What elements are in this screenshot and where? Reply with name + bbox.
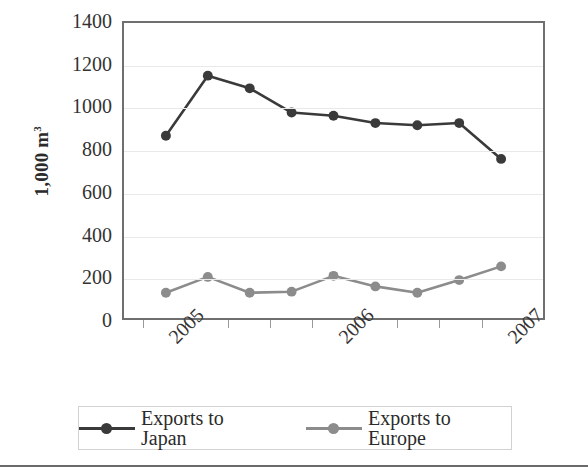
x-tick-mark bbox=[312, 320, 313, 328]
data-point bbox=[329, 111, 339, 121]
data-point bbox=[203, 71, 213, 81]
line-chart-figure: 1,000 m3 0200400600800100012001400 20052… bbox=[0, 0, 588, 473]
x-tick-mark bbox=[143, 320, 144, 328]
plot-area bbox=[122, 21, 545, 320]
data-point bbox=[496, 261, 506, 271]
series-canvas bbox=[124, 23, 543, 318]
data-point bbox=[370, 118, 380, 128]
data-point bbox=[454, 118, 464, 128]
y-axis-title-superscript: 3 bbox=[31, 126, 43, 132]
y-tick-label: 800 bbox=[56, 139, 112, 159]
legend-item[interactable]: Exports to Europe bbox=[306, 408, 511, 448]
data-point bbox=[203, 272, 213, 282]
y-axis-title-text: 1,000 m bbox=[31, 132, 52, 197]
data-point bbox=[412, 288, 422, 298]
gridline bbox=[124, 108, 543, 109]
bottom-divider bbox=[0, 465, 588, 467]
data-point bbox=[161, 288, 171, 298]
gridline bbox=[124, 279, 543, 280]
x-tick-mark bbox=[228, 320, 229, 328]
y-axis-title: 1,000 m3 bbox=[31, 86, 53, 236]
data-point bbox=[245, 288, 255, 298]
data-point bbox=[245, 83, 255, 93]
series-exports-to-japan bbox=[161, 71, 506, 164]
y-tick-label: 1000 bbox=[56, 96, 112, 116]
legend-label: Exports to Japan bbox=[141, 408, 272, 448]
data-point bbox=[370, 281, 380, 291]
legend-item[interactable]: Exports to Japan bbox=[79, 408, 272, 448]
y-tick-label: 1200 bbox=[56, 54, 112, 74]
x-tick-mark bbox=[439, 320, 440, 328]
y-tick-label: 400 bbox=[56, 225, 112, 245]
legend-swatch bbox=[306, 421, 361, 435]
y-tick-label: 200 bbox=[56, 267, 112, 287]
y-axis-tick-labels: 0200400600800100012001400 bbox=[56, 0, 112, 473]
y-tick-label: 0 bbox=[56, 310, 112, 330]
legend-label: Exports to Europe bbox=[368, 408, 511, 448]
gridline bbox=[124, 151, 543, 152]
data-point bbox=[161, 131, 171, 141]
y-tick-label: 1400 bbox=[56, 11, 112, 31]
y-tick-label: 600 bbox=[56, 182, 112, 202]
x-tick-mark bbox=[482, 320, 483, 328]
gridline bbox=[124, 237, 543, 238]
data-point bbox=[412, 120, 422, 130]
x-tick-mark bbox=[397, 320, 398, 328]
legend-swatch bbox=[79, 421, 134, 435]
data-point bbox=[287, 287, 297, 297]
x-tick-mark bbox=[270, 320, 271, 328]
chart-legend: Exports to JapanExports to Europe bbox=[78, 406, 512, 450]
data-point bbox=[496, 154, 506, 164]
gridline bbox=[124, 66, 543, 67]
gridline bbox=[124, 194, 543, 195]
